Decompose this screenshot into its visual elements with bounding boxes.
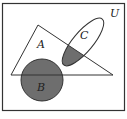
venn-diagram: U A B C bbox=[0, 0, 127, 119]
set-b-circle bbox=[21, 59, 63, 101]
set-a-label: A bbox=[36, 38, 45, 51]
set-b-label: B bbox=[36, 81, 45, 94]
set-c-label: C bbox=[80, 29, 89, 42]
universe-label: U bbox=[110, 7, 120, 20]
